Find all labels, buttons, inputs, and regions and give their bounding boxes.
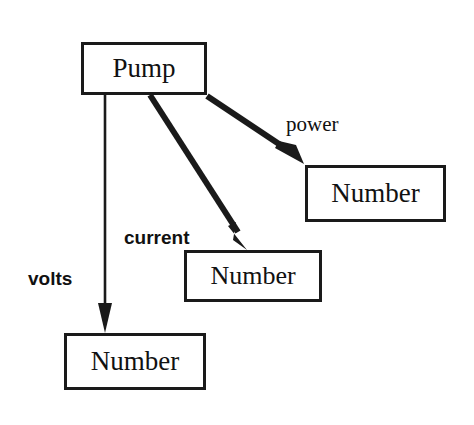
edge-current-line (150, 95, 238, 232)
edge-volts (98, 95, 112, 333)
node-pump[interactable]: Pump (81, 42, 207, 95)
edge-volts-arrowhead (98, 303, 112, 333)
node-number-current-label: Number (210, 263, 295, 289)
node-number-current[interactable]: Number (184, 250, 322, 302)
node-number-power-label: Number (331, 180, 419, 207)
edge-power-arrowhead (275, 141, 304, 164)
node-number-volts-label: Number (91, 348, 179, 375)
node-number-power[interactable]: Number (305, 165, 446, 222)
edge-label-current: current (124, 228, 189, 247)
diagram-canvas: Pump Number Number Number power current … (0, 0, 474, 425)
node-pump-label: Pump (112, 55, 175, 82)
node-number-volts[interactable]: Number (64, 333, 206, 390)
edge-label-volts: volts (28, 269, 72, 288)
edge-power-line (207, 96, 288, 150)
edge-label-power: power (286, 114, 338, 135)
